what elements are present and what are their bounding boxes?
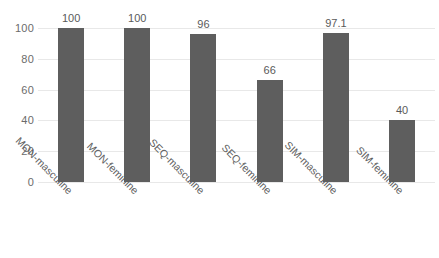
x-label-slot: SEQ-feminine xyxy=(237,182,303,258)
bar-slot: 66 xyxy=(237,28,303,182)
bar-value-label: 40 xyxy=(372,105,432,116)
bar-chart: 100 80 60 40 20 0 100 100 96 66 xyxy=(0,0,439,258)
bar[interactable] xyxy=(257,80,283,182)
x-label-slot: SIM-feminine xyxy=(369,182,435,258)
bar-slot: 96 xyxy=(170,28,236,182)
bar-value-label: 97.1 xyxy=(306,18,366,29)
bar[interactable] xyxy=(190,34,216,182)
x-label-wrap: MON-masculine xyxy=(38,188,104,258)
bar-slot: 40 xyxy=(369,28,435,182)
x-label-wrap: MON-feminine xyxy=(104,188,170,258)
bar[interactable] xyxy=(124,28,150,182)
y-tick-label: 80 xyxy=(0,54,34,65)
y-tick-label: 100 xyxy=(0,23,34,34)
bar-value-label: 66 xyxy=(240,65,300,76)
x-label-wrap: SIM-feminine xyxy=(369,188,435,258)
bar[interactable] xyxy=(389,120,415,182)
x-label-wrap: SEQ-feminine xyxy=(237,188,303,258)
bar-value-label: 100 xyxy=(41,13,101,24)
y-tick-label: 60 xyxy=(0,85,34,96)
x-label-wrap: SIM-masculine xyxy=(303,188,369,258)
y-tick-label: 0 xyxy=(0,177,34,188)
bar[interactable] xyxy=(323,33,349,183)
x-label-slot: SEQ-masculine xyxy=(170,182,236,258)
bar-slot: 100 xyxy=(38,28,104,182)
bar-value-label: 96 xyxy=(173,19,233,30)
x-label-slot: MON-masculine xyxy=(38,182,104,258)
bar[interactable] xyxy=(58,28,84,182)
y-tick-label: 40 xyxy=(0,115,34,126)
x-label-slot: MON-feminine xyxy=(104,182,170,258)
bar-slot: 97.1 xyxy=(303,28,369,182)
bar-value-label: 100 xyxy=(107,13,167,24)
x-axis: MON-masculine MON-feminine SEQ-masculine… xyxy=(38,182,435,258)
x-label-slot: SIM-masculine xyxy=(303,182,369,258)
x-label-wrap: SEQ-masculine xyxy=(170,188,236,258)
